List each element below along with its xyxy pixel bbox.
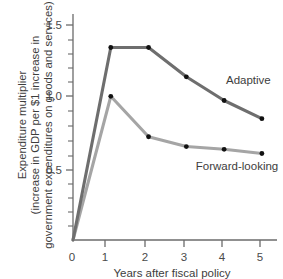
y-axis-title-line-2: (increase in GDP per $1 increase in: [29, 36, 41, 215]
x-axis-title: Years after fiscal policy: [113, 267, 230, 279]
series-annotation-forward-looking: Forward-looking: [196, 160, 278, 172]
data-point: [108, 94, 113, 99]
data-point: [222, 98, 227, 103]
data-point: [184, 74, 189, 79]
data-point: [222, 147, 227, 152]
data-point: [259, 116, 264, 121]
x-tick-label-0: 0: [69, 251, 75, 263]
series-annotation-adaptive: Adaptive: [226, 74, 271, 86]
y-tick-label-1.5: 1.5: [46, 19, 62, 31]
y-tick-label-0.5: 0.5: [46, 164, 62, 176]
y-axis-title-line-1: Expenditure multiplier: [16, 70, 28, 179]
y-axis-major-ticks: [66, 25, 73, 170]
x-axis-ticks: [105, 240, 260, 247]
y-axis-title-line-3: government expenditures on goods and ser…: [42, 1, 54, 249]
x-tick-label-3: 3: [181, 251, 187, 263]
y-tick-label-1.0: 1.0: [46, 90, 62, 102]
x-tick-label-2: 2: [142, 251, 148, 263]
chart-figure: Expenditure multiplier (increase in GDP …: [0, 0, 283, 279]
data-point: [108, 45, 113, 50]
data-point: [146, 45, 151, 50]
data-point: [184, 144, 189, 149]
x-tick-label-4: 4: [219, 251, 226, 263]
y-axis-title: Expenditure multiplier (increase in GDP …: [16, 1, 54, 249]
data-point: [146, 134, 151, 139]
line-chart: Expenditure multiplier (increase in GDP …: [0, 0, 283, 279]
y-axis-minor-ticks: [68, 40, 73, 226]
data-point: [259, 151, 264, 156]
x-tick-label-5: 5: [257, 251, 263, 263]
x-tick-label-1: 1: [102, 251, 108, 263]
series-markers-forward-looking: [108, 94, 264, 156]
